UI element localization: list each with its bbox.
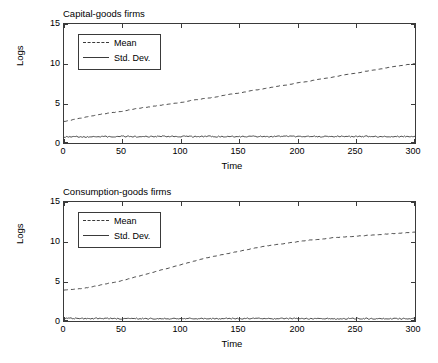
- panel-title: Consumption-goods firms: [63, 186, 171, 198]
- figure: Capital-goods firms Logs 15 10 5 0: [0, 0, 438, 363]
- legend-item-mean: Mean: [79, 35, 160, 50]
- x-tick-label: 250: [347, 147, 362, 156]
- y-tick-label: 10: [34, 59, 60, 68]
- y-tick-label: 15: [34, 19, 60, 28]
- x-tick-label: 150: [230, 147, 245, 156]
- y-tick-label: 10: [34, 237, 60, 246]
- y-axis-ticks: 15 10 5 0: [30, 201, 60, 322]
- legend-line-dashed-icon: [83, 42, 109, 43]
- legend-label: Mean: [114, 38, 137, 48]
- x-tick-label: 300: [405, 325, 420, 334]
- legend-label: Std. Dev.: [114, 231, 150, 241]
- y-tick-label: 0: [34, 317, 60, 326]
- x-tick-label: 100: [172, 325, 187, 334]
- x-axis-ticks: 0 50 100 150 200 250 300: [63, 325, 416, 337]
- x-tick-label: 0: [60, 325, 65, 334]
- x-tick-label: 0: [60, 147, 65, 156]
- legend-line-solid-icon: [83, 235, 109, 236]
- x-axis-label: Time: [0, 160, 438, 171]
- legend-item-stddev: Std. Dev.: [79, 228, 160, 243]
- x-tick-label: 150: [230, 325, 245, 334]
- x-tick-label: 250: [347, 325, 362, 334]
- legend-label: Mean: [114, 216, 137, 226]
- x-tick-label: 100: [172, 147, 187, 156]
- panel-title: Capital-goods firms: [63, 8, 145, 20]
- legend-label: Std. Dev.: [114, 53, 150, 63]
- y-axis-label: Logs: [14, 45, 25, 66]
- x-tick-label: 200: [289, 147, 304, 156]
- y-tick-label: 5: [34, 277, 60, 286]
- legend-line-dashed-icon: [83, 220, 109, 221]
- x-axis-ticks: 0 50 100 150 200 250 300: [63, 147, 416, 159]
- y-axis-ticks: 15 10 5 0: [30, 23, 60, 144]
- legend-item-stddev: Std. Dev.: [79, 50, 160, 65]
- legend: Mean Std. Dev.: [78, 34, 161, 70]
- x-tick-label: 50: [116, 325, 126, 334]
- x-tick-label: 200: [289, 325, 304, 334]
- chart-panel-consumption-goods: Consumption-goods firms Logs 15 10 5 0: [0, 186, 438, 358]
- x-tick-label: 50: [116, 147, 126, 156]
- y-tick-label: 15: [34, 197, 60, 206]
- y-axis-label: Logs: [14, 223, 25, 244]
- legend-item-mean: Mean: [79, 213, 160, 228]
- x-tick-label: 300: [405, 147, 420, 156]
- y-tick-label: 5: [34, 99, 60, 108]
- legend: Mean Std. Dev.: [78, 212, 161, 248]
- legend-line-solid-icon: [83, 57, 109, 58]
- y-tick-label: 0: [34, 139, 60, 148]
- chart-panel-capital-goods: Capital-goods firms Logs 15 10 5 0: [0, 8, 438, 180]
- x-axis-label: Time: [0, 338, 438, 349]
